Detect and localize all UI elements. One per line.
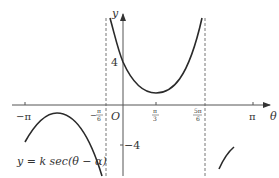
curve-lower-right-branch: [219, 147, 234, 169]
x-tick-label-neg-pi: −π: [16, 111, 31, 122]
x-tick-label-pi: π: [249, 111, 256, 122]
curve-upper-branch: [110, 18, 202, 93]
x-axis-label: θ: [270, 110, 277, 123]
x-tick-sign-neg-pi-6: −: [90, 111, 97, 120]
x-tick-num-5pi-6: 5π: [194, 107, 202, 114]
x-tick-den-neg-pi-6: 6: [97, 115, 101, 122]
y-tick-label-neg-4: −4: [124, 139, 140, 152]
sec-graph: y θ O 4 −4 −π π − π 6 π 3 5π 6 y = k sec…: [0, 0, 279, 178]
x-tick-den-5pi-6: 6: [196, 115, 200, 122]
equation-label: y = k sec(θ − α): [16, 155, 107, 168]
origin-label: O: [111, 110, 120, 123]
x-tick-num-neg-pi-6: π: [97, 107, 101, 114]
x-tick-num-pi-3: π: [153, 107, 157, 114]
y-tick-label-4: 4: [111, 56, 118, 69]
x-tick-den-pi-3: 3: [153, 115, 157, 122]
y-axis-label: y: [111, 7, 119, 20]
